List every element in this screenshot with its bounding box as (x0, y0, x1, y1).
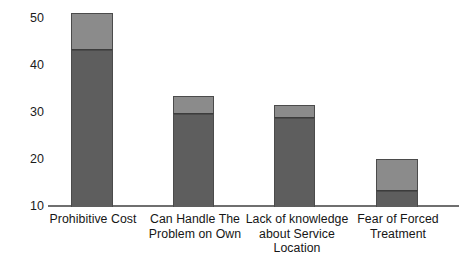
bar-segment-lower (274, 118, 315, 207)
x-label-lack-of-knowledge-about-service-location: Lack of knowledge about Service Location (239, 212, 355, 256)
x-label-line: Prohibitive Cost (41, 212, 145, 227)
y-axis: 50 40 30 20 10 (0, 0, 44, 259)
x-label-line: Can Handle The (141, 212, 249, 227)
bar-prohibitive-cost (71, 13, 113, 207)
x-label-line: Lack of knowledge (239, 212, 355, 227)
plot-area (48, 0, 459, 207)
bar-lack-of-knowledge-about-service-location (274, 105, 315, 207)
x-label-can-handle-the-problem-on-own: Can Handle The Problem on Own (141, 212, 249, 241)
y-tick-label-10: 10 (0, 200, 44, 213)
bar-segment-lower (376, 191, 418, 207)
x-label-line: Fear of Forced (350, 212, 446, 227)
x-label-line: Treatment (350, 227, 446, 242)
x-label-line: Location (239, 241, 355, 256)
x-label-prohibitive-cost: Prohibitive Cost (41, 212, 145, 227)
y-tick-label-30: 30 (0, 106, 44, 119)
x-label-fear-of-forced-treatment: Fear of Forced Treatment (350, 212, 446, 241)
bar-segment-lower (71, 50, 113, 207)
x-label-line: Problem on Own (141, 227, 249, 242)
bar-can-handle-the-problem-on-own (173, 96, 214, 207)
bar-segment-upper (274, 105, 315, 118)
bar-segment-upper (173, 96, 214, 114)
stacked-bar-chart: 50 40 30 20 10 Prohibitive Cost (0, 0, 464, 259)
x-label-line: about Service (239, 227, 355, 242)
bar-segment-upper (376, 159, 418, 191)
bar-segment-upper (71, 13, 113, 50)
y-tick-label-20: 20 (0, 153, 44, 166)
bar-fear-of-forced-treatment (376, 159, 418, 207)
bar-segment-lower (173, 114, 214, 207)
y-tick-label-50: 50 (0, 12, 44, 25)
y-tick-label-40: 40 (0, 59, 44, 72)
